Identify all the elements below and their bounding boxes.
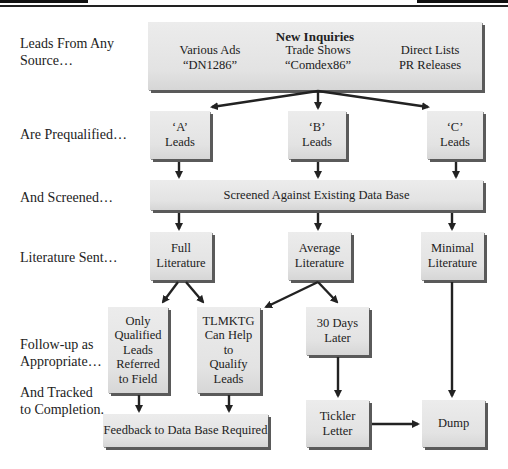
qualified-leads-box: Only Qualified Leads Referred to Field <box>108 307 168 393</box>
a-leads-box: ‘A’ Leads <box>150 111 210 159</box>
tickler-letter-box: Tickler Letter <box>306 400 369 447</box>
box-line: Leads <box>123 343 153 358</box>
box-line: ‘C’ <box>447 120 464 135</box>
box-line: Full <box>171 241 191 256</box>
source-line: Direct Lists <box>401 43 460 57</box>
stage-label-line: Source… <box>20 53 73 68</box>
arrow-to-a-leads <box>212 91 318 107</box>
header-rule-left <box>0 0 88 3</box>
stage-label-literature: Literature Sent… <box>20 249 118 266</box>
stage-label-tracked: And Tracked to Completion. <box>20 384 104 418</box>
full-literature-box: Full Literature <box>150 232 212 280</box>
source-various-ads: Various Ads “DN1286” <box>160 43 260 73</box>
source-line: Trade Shows <box>285 43 350 57</box>
box-line: Later <box>324 331 350 346</box>
average-literature-box: Average Literature <box>288 232 351 280</box>
box-line: to Field <box>119 372 158 387</box>
tlmktg-box: TLMKTG Can Help to Qualify Leads <box>197 307 260 393</box>
stage-label-line: Are Prequalified… <box>20 127 127 142</box>
source-line: Various Ads <box>180 43 241 57</box>
header-rule-thin <box>0 5 508 7</box>
feedback-bar: Feedback to Data Base Required <box>103 414 268 447</box>
box-line: Leads <box>165 135 195 150</box>
stage-label-leads-source: Leads From Any Source… <box>20 35 114 69</box>
box-line: ‘A’ <box>172 120 188 135</box>
box-line: Letter <box>323 424 353 439</box>
box-line: Leads <box>440 135 470 150</box>
minimal-literature-box: Minimal Literature <box>421 232 484 280</box>
arrow-to-c-leads <box>318 91 428 107</box>
stage-label-prequalified: Are Prequalified… <box>20 126 127 143</box>
stage-label-line: Leads From Any <box>20 36 114 51</box>
source-line: “Comdex86” <box>285 58 351 72</box>
box-line: Only <box>126 314 151 329</box>
box-line: Tickler <box>320 409 356 424</box>
box-line: Qualify <box>209 357 247 372</box>
box-line: Literature <box>156 256 205 271</box>
thirty-days-later-box: 30 Days Later <box>306 307 369 355</box>
box-line: Referred <box>116 357 160 372</box>
source-direct-lists: Direct Lists PR Releases <box>380 43 480 73</box>
stage-label-line: And Tracked <box>20 385 93 400</box>
box-line: ‘B’ <box>309 120 326 135</box>
screened-label: Screened Against Existing Data Base <box>223 188 409 203</box>
box-line: Qualified <box>114 328 161 343</box>
box-line: 30 Days <box>317 316 358 331</box>
new-inquiries-title: New Inquiries <box>276 29 354 44</box>
screened-bar: Screened Against Existing Data Base <box>150 180 483 210</box>
source-line: PR Releases <box>399 58 461 72</box>
stage-label-line: And Screened… <box>20 190 113 205</box>
source-line: “DN1286” <box>183 58 237 72</box>
stage-label-line: to Completion. <box>20 402 104 417</box>
b-leads-box: ‘B’ Leads <box>288 111 346 159</box>
c-leads-box: ‘C’ Leads <box>427 111 483 159</box>
source-trade-shows: Trade Shows “Comdex86” <box>268 43 368 73</box>
box-line: to <box>224 343 234 358</box>
stage-label-line: Follow-up as <box>20 337 94 352</box>
stage-label-line: Appropriate… <box>20 354 102 369</box>
header-rule-right <box>417 0 508 3</box>
stage-label-followup: Follow-up as Appropriate… <box>20 336 102 370</box>
box-line: Literature <box>428 256 477 271</box>
stage-label-line: Literature Sent… <box>20 250 118 265</box>
box-line: Leads <box>214 372 244 387</box>
box-line: Can Help <box>205 328 253 343</box>
box-line: Average <box>299 241 340 256</box>
box-line: Leads <box>302 135 332 150</box>
box-line: Literature <box>295 256 344 271</box>
stage-label-screened: And Screened… <box>20 189 113 206</box>
dump-box: Dump <box>422 400 485 447</box>
box-line: Minimal <box>431 241 474 256</box>
box-line: Dump <box>438 416 469 431</box>
feedback-label: Feedback to Data Base Required <box>104 423 268 438</box>
box-line: TLMKTG <box>202 314 254 329</box>
